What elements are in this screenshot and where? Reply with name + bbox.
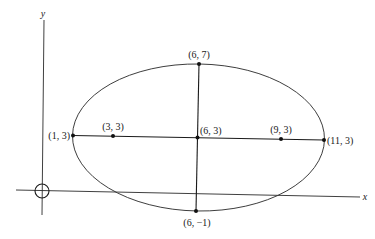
point-vertex-right <box>322 138 326 142</box>
point-co-vertex-top <box>197 62 201 66</box>
label-focus-left: (3, 3) <box>102 121 124 133</box>
x-axis-label: x <box>362 191 368 202</box>
y-axis-label: y <box>40 8 46 19</box>
label-center: (6, 3) <box>200 125 222 137</box>
label-co-vertex-bottom: (6, −1) <box>183 217 210 229</box>
point-vertex-left <box>71 134 75 138</box>
point-focus-left <box>111 134 115 138</box>
point-center <box>196 136 200 140</box>
label-focus-right: (9, 3) <box>270 124 292 136</box>
point-co-vertex-bottom <box>194 209 198 213</box>
label-co-vertex-top: (6, 7) <box>188 49 210 61</box>
label-vertex-left: (1, 3) <box>48 130 70 142</box>
y-axis <box>42 20 44 215</box>
label-vertex-right: (11, 3) <box>327 135 353 147</box>
ellipse-diagram: y x (1, 3) (3, 3) (6, 3) (9, 3) (11, 3) … <box>0 0 375 239</box>
point-focus-right <box>279 137 283 141</box>
x-axis <box>16 190 360 197</box>
